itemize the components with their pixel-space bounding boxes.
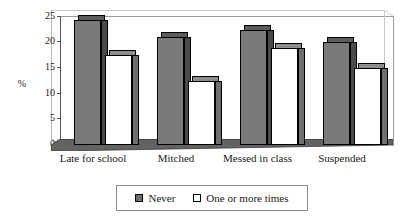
- legend: Never One or more times: [116, 185, 308, 211]
- y-tick-label-10: 10: [33, 88, 55, 98]
- legend-swatch-never-icon: [135, 194, 143, 202]
- bar-group-suspended: [319, 16, 397, 145]
- y-tick-label-5: 5: [33, 113, 55, 123]
- legend-item-never[interactable]: Never: [135, 193, 175, 204]
- legend-swatch-one-or-more-times-icon: [193, 194, 201, 202]
- y-tick-label-25: 25: [33, 11, 55, 21]
- y-tick-label-20: 20: [33, 36, 55, 46]
- bar-chart: % 25 20 15 10 5 0: [0, 0, 400, 222]
- legend-label-never: Never: [148, 193, 175, 204]
- bar-suspended-never[interactable]: [323, 42, 350, 145]
- bar-late-for-school-one-or-more-times[interactable]: [105, 55, 132, 145]
- legend-label-one-or-more-times: One or more times: [206, 193, 288, 204]
- plot-area: [60, 16, 393, 145]
- bar-group-mitched: [153, 16, 231, 145]
- plot-top-edge: [51, 10, 384, 11]
- bar-group-late-for-school: [70, 16, 148, 145]
- bar-group-messed-in-class: [236, 16, 314, 145]
- bar-mitched-never[interactable]: [157, 37, 184, 145]
- bar-messed-in-class-never[interactable]: [240, 30, 267, 145]
- bar-suspended-one-or-more-times[interactable]: [354, 68, 381, 145]
- y-axis-title: %: [12, 78, 32, 89]
- bar-late-for-school-never[interactable]: [74, 20, 101, 145]
- bar-messed-in-class-one-or-more-times[interactable]: [271, 48, 298, 145]
- bar-mitched-one-or-more-times[interactable]: [188, 81, 215, 145]
- legend-item-one-or-more-times[interactable]: One or more times: [193, 193, 288, 204]
- x-tick-label-suspended: Suspended: [297, 152, 387, 164]
- y-tick-label-15: 15: [33, 62, 55, 72]
